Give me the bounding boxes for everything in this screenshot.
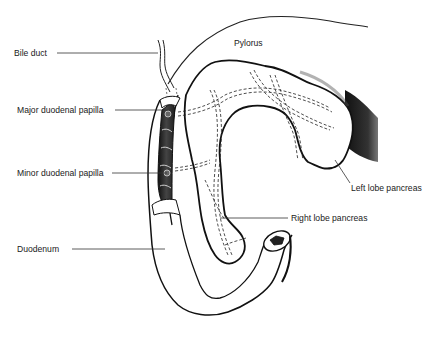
label-major-duodenal-papilla: Major duodenal papilla xyxy=(17,105,103,115)
duodenal-mucosa xyxy=(158,102,175,202)
label-pylorus: Pylorus xyxy=(234,38,263,48)
major-papilla-marker xyxy=(165,111,171,117)
label-left-lobe-pancreas: Left lobe pancreas xyxy=(351,183,422,193)
label-bile-duct: Bile duct xyxy=(14,48,47,58)
diagram-canvas: Bile duct Major duodenal papilla Minor d… xyxy=(0,0,438,337)
label-minor-duodenal-papilla: Minor duodenal papilla xyxy=(17,168,103,178)
label-duodenum: Duodenum xyxy=(17,244,59,254)
label-right-lobe-pancreas: Right lobe pancreas xyxy=(291,213,367,223)
